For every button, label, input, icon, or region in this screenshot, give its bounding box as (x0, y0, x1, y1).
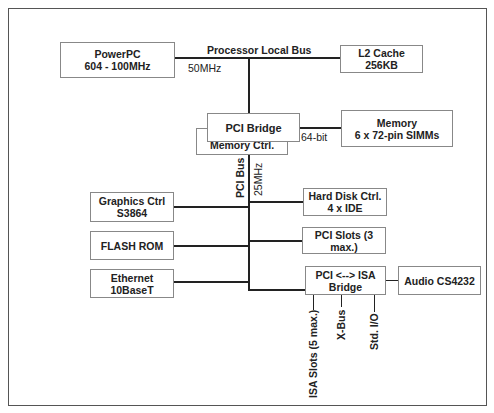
std-io-label: Std. I/O (368, 313, 380, 350)
ethernet-spec: 10BaseT (110, 284, 153, 296)
processor-bus-speed-label: 50MHz (188, 62, 221, 74)
pci-slots-link (249, 240, 302, 242)
graphics-ctrl-box: Graphics Ctrl S3864 (90, 192, 174, 222)
ethernet-link (174, 281, 249, 283)
pci-bridge-box: PCI Bridge (207, 113, 300, 142)
graphics-chip: S3864 (117, 207, 147, 219)
l2-cache-box: L2 Cache 256KB (340, 45, 423, 73)
pci-slots-box: PCI Slots (3 max.) (302, 227, 386, 254)
xbus-label: X-Bus (335, 310, 347, 340)
flash-link (174, 245, 249, 247)
flash-rom-box: FLASH ROM (90, 231, 174, 260)
processor-to-bridge-line (248, 57, 250, 114)
stdio-stub (374, 295, 375, 312)
ethernet-name: Ethernet (111, 272, 154, 284)
pci-bus-speed-label: 25MHz (252, 163, 264, 196)
processor-bus-label: Processor Local Bus (207, 44, 311, 56)
powerpc-name: PowerPC (94, 48, 140, 60)
ethernet-box: Ethernet 10BaseT (90, 269, 174, 298)
pci-bridge-label: PCI Bridge (225, 122, 281, 134)
isa-bridge-link (249, 289, 305, 291)
isa-slots-stub (313, 295, 314, 310)
powerpc-spec: 604 - 100MHz (85, 60, 151, 72)
pci-slots-label: PCI Slots (3 max.) (303, 229, 385, 253)
audio-label: Audio CS4232 (404, 275, 475, 287)
l2-cache-size: 256KB (365, 59, 398, 71)
memory-spec: 6 x 72-pin SIMMs (355, 129, 440, 141)
pci-isa-bridge-box: PCI <--> ISA Bridge (305, 266, 386, 295)
processor-bus-line (175, 57, 341, 59)
memory-box: Memory 6 x 72-pin SIMMs (341, 110, 453, 147)
pci-bus-label: PCI Bus (234, 158, 246, 198)
hard-disk-ctrl-box: Hard Disk Ctrl. 4 x IDE (303, 188, 387, 216)
xbus-stub (341, 295, 342, 307)
hard-disk-spec: 4 x IDE (327, 202, 362, 214)
l2-cache-name: L2 Cache (358, 47, 405, 59)
pci-bus-line (248, 155, 250, 291)
isa-slots-label: ISA Slots (5 max.) (307, 310, 319, 398)
isa-bridge-line1: PCI <--> ISA (315, 269, 375, 281)
memory-64bit-line (300, 127, 342, 129)
flash-rom-label: FLASH ROM (101, 240, 163, 252)
graphics-name: Graphics Ctrl (99, 195, 166, 207)
audio-link (386, 280, 398, 281)
isa-bridge-line2: Bridge (329, 281, 362, 293)
harddisk-link (249, 201, 303, 203)
hard-disk-name: Hard Disk Ctrl. (309, 190, 382, 202)
powerpc-box: PowerPC 604 - 100MHz (60, 42, 175, 78)
memory-name: Memory (377, 117, 417, 129)
memory-width-label: 64-bit (301, 131, 327, 143)
audio-box: Audio CS4232 (398, 266, 481, 295)
graphics-link (174, 206, 249, 208)
